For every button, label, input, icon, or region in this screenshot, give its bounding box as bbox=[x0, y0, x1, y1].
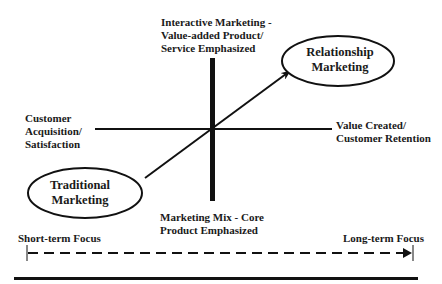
timeline-arrowhead bbox=[403, 248, 412, 258]
short-term-focus-label: Short-term Focus bbox=[18, 232, 101, 245]
relationship-marketing-node: Relationship Marketing bbox=[290, 45, 390, 75]
top-axis-label-line2: Value-added Product/ bbox=[161, 29, 272, 42]
progression-arrow bbox=[145, 71, 290, 178]
bottom-axis-label: Marketing Mix - Core Product Emphasized bbox=[160, 211, 264, 237]
left-axis-label-line1: Customer bbox=[25, 112, 82, 125]
relationship-marketing-line1: Relationship bbox=[290, 45, 390, 60]
bottom-rule bbox=[14, 277, 418, 280]
bottom-axis-label-line2: Product Emphasized bbox=[160, 224, 264, 237]
left-axis-label-line3: Satisfaction bbox=[25, 138, 82, 151]
left-axis-label-line2: Acquisition/ bbox=[25, 125, 82, 138]
bottom-axis-label-line1: Marketing Mix - Core bbox=[160, 211, 264, 224]
traditional-marketing-line1: Traditional bbox=[30, 178, 130, 193]
right-axis-label-line2: Customer Retention bbox=[336, 132, 431, 145]
top-axis-label-line3: Service Emphasized bbox=[161, 42, 272, 55]
top-axis-label-line1: Interactive Marketing - bbox=[161, 16, 272, 29]
right-axis-label-line1: Value Created/ bbox=[336, 119, 431, 132]
left-axis-label: Customer Acquisition/ Satisfaction bbox=[25, 112, 82, 151]
traditional-marketing-line2: Marketing bbox=[30, 193, 130, 208]
right-axis-label: Value Created/ Customer Retention bbox=[336, 119, 431, 145]
long-term-focus-label: Long-term Focus bbox=[343, 232, 424, 245]
relationship-marketing-line2: Marketing bbox=[290, 60, 390, 75]
traditional-marketing-node: Traditional Marketing bbox=[30, 178, 130, 208]
top-axis-label: Interactive Marketing - Value-added Prod… bbox=[161, 16, 272, 55]
